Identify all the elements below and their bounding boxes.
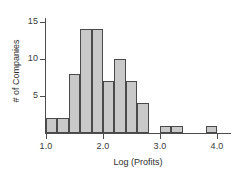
- y-axis-tick: [40, 22, 45, 23]
- x-axis-tick-label: 1.0: [31, 141, 61, 151]
- x-axis-title: Log (Profits): [45, 157, 231, 167]
- histogram-bar: [57, 118, 68, 133]
- y-axis-line: [45, 18, 46, 134]
- histogram-bar: [160, 126, 171, 133]
- x-axis-tick: [46, 134, 47, 139]
- x-axis-tick: [160, 134, 161, 139]
- x-axis-tick: [217, 134, 218, 139]
- histogram-bar: [46, 118, 57, 133]
- histogram-figure: 51015 1.02.03.04.0 Log (Profits) # of Co…: [0, 0, 245, 182]
- histogram-bar: [92, 29, 103, 133]
- histogram-bar: [206, 126, 217, 133]
- y-axis-tick: [40, 59, 45, 60]
- x-axis-tick-label: 3.0: [145, 141, 175, 151]
- histogram-bar: [114, 59, 125, 133]
- histogram-bar: [137, 103, 148, 133]
- x-axis-line: [45, 133, 231, 134]
- plot-area: 51015 1.02.03.04.0 Log (Profits) # of Co…: [0, 0, 245, 182]
- histogram-bar: [69, 74, 80, 133]
- x-axis-tick: [103, 134, 104, 139]
- y-axis-tick: [40, 96, 45, 97]
- histogram-bar: [103, 81, 114, 133]
- x-axis-tick-label: 2.0: [88, 141, 118, 151]
- x-axis-tick-label: 4.0: [202, 141, 232, 151]
- histogram-bar: [126, 81, 137, 133]
- histogram-bar: [171, 126, 182, 133]
- histogram-bar: [80, 29, 91, 133]
- y-axis-title: # of Companies: [11, 13, 21, 129]
